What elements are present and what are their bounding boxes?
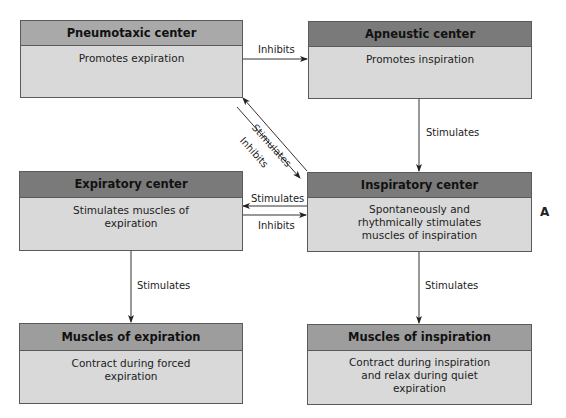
edge-label-apneustic-stimulates-inspiratory: Stimulates	[426, 127, 479, 138]
node-expiratory-center: Expiratory center Stimulates muscles of …	[19, 171, 243, 251]
node-description: Promotes expiration	[21, 46, 242, 65]
node-title: Inspiratory center	[308, 173, 531, 198]
edge-label-expiratory-stimulates-muscles: Stimulates	[137, 280, 190, 291]
description-line: rhythmically stimulates	[308, 216, 531, 229]
description-line: muscles of inspiration	[308, 229, 531, 242]
description-line: expiration	[308, 382, 531, 395]
description-line: expiration	[20, 217, 242, 230]
edge-label-pneumotaxic-inhibits-apneustic: Inhibits	[258, 44, 295, 55]
description-line: expiration	[20, 370, 242, 383]
node-apneustic-center: Apneustic center Promotes inspiration	[308, 21, 532, 99]
node-description: Stimulates muscles of expiration	[20, 198, 242, 230]
edge-label-expiratory-inhibits-inspiratory: Inhibits	[258, 220, 295, 231]
description-line: Contract during forced	[20, 357, 242, 370]
node-muscles-of-inspiration: Muscles of inspiration Contract during i…	[307, 324, 532, 405]
description-line: Contract during inspiration	[308, 356, 531, 369]
node-inspiratory-center: Inspiratory center Spontaneously and rhy…	[307, 172, 532, 252]
node-muscles-of-expiration: Muscles of expiration Contract during fo…	[19, 323, 243, 404]
node-description: Contract during inspiration and relax du…	[308, 351, 531, 395]
panel-label: A	[540, 205, 549, 219]
node-title: Muscles of expiration	[20, 324, 242, 351]
description-line: Spontaneously and	[308, 203, 531, 216]
node-pneumotaxic-center: Pneumotaxic center Promotes expiration	[20, 20, 243, 98]
node-title: Expiratory center	[20, 172, 242, 198]
node-description: Contract during forced expiration	[20, 351, 242, 383]
node-description: Promotes inspiration	[309, 47, 531, 66]
node-title: Pneumotaxic center	[21, 21, 242, 46]
node-title: Muscles of inspiration	[308, 325, 531, 351]
description-line: Stimulates muscles of	[20, 204, 242, 217]
edge-label-inspiratory-stimulates-expiratory: Stimulates	[251, 193, 304, 204]
edge-label-inspiratory-stimulates-muscles: Stimulates	[425, 280, 478, 291]
node-description: Spontaneously and rhythmically stimulate…	[308, 198, 531, 242]
arrow-inspiratory-to-pneumotaxic	[243, 98, 307, 171]
description-line: and relax during quiet	[308, 369, 531, 382]
node-title: Apneustic center	[309, 22, 531, 47]
